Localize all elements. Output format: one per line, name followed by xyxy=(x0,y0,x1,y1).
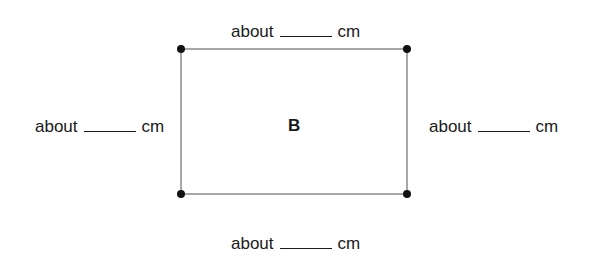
measurement-figure: B about cm about cm about cm about cm xyxy=(0,0,595,270)
corner-dot-top-right xyxy=(403,45,411,53)
measurement-top-prefix: about xyxy=(231,22,274,42)
measurement-left-unit: cm xyxy=(142,117,165,137)
measurement-bottom-blank[interactable] xyxy=(280,234,332,249)
measurement-right: about cm xyxy=(429,117,558,137)
measurement-top-unit: cm xyxy=(338,22,361,42)
corner-dot-top-left xyxy=(177,45,185,53)
measurement-left-prefix: about xyxy=(35,117,78,137)
shape-label: B xyxy=(288,116,300,136)
measurement-left: about cm xyxy=(35,117,164,137)
measurement-top: about cm xyxy=(231,22,360,42)
measurement-left-blank[interactable] xyxy=(84,117,136,132)
measurement-bottom: about cm xyxy=(231,234,360,254)
measurement-right-unit: cm xyxy=(536,117,559,137)
measurement-right-blank[interactable] xyxy=(478,117,530,132)
corner-dot-bottom-left xyxy=(177,190,185,198)
corner-dot-bottom-right xyxy=(403,190,411,198)
measurement-right-prefix: about xyxy=(429,117,472,137)
measurement-top-blank[interactable] xyxy=(280,22,332,37)
measurement-bottom-prefix: about xyxy=(231,234,274,254)
measurement-bottom-unit: cm xyxy=(338,234,361,254)
